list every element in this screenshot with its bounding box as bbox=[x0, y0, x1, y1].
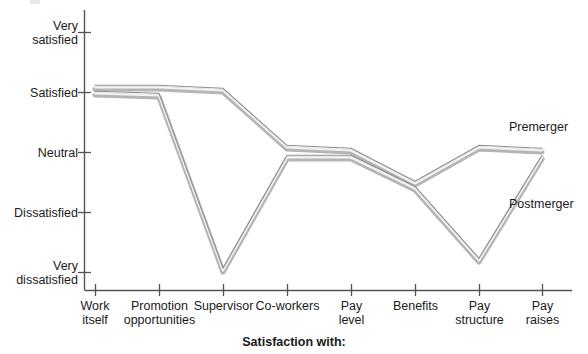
y-tick-label-dissatisfied: Dissatisfied bbox=[0, 206, 78, 220]
x-tick-label-benefits: Benefits bbox=[381, 299, 450, 313]
x-tick-label-pay-raises: Pay raises bbox=[508, 299, 577, 327]
y-tick-label-very-dissatisfied: Very dissatisfied bbox=[0, 259, 78, 287]
x-tick-label-pay-level: Pay level bbox=[320, 299, 383, 327]
legend-label-postmerger: Postmerger bbox=[509, 197, 574, 211]
x-tick-label-co-workers: Co-workers bbox=[247, 299, 328, 313]
x-tick-label-pay-structure: Pay structure bbox=[441, 299, 518, 327]
y-tick-label-satisfied: Satisfied bbox=[0, 86, 78, 100]
series-postmerger bbox=[95, 91, 542, 272]
legend-label-premerger: Premerger bbox=[509, 120, 568, 134]
y-tick-label-very-satisfied: Very satisfied bbox=[0, 19, 78, 47]
chart-container: Very satisfied Satisfied Neutral Dissati… bbox=[0, 0, 588, 354]
x-axis-title: Satisfaction with: bbox=[0, 335, 588, 349]
postmerger-shadow bbox=[95, 95, 542, 272]
postmerger-edge bbox=[95, 91, 542, 268]
y-tick-label-neutral: Neutral bbox=[0, 146, 78, 160]
postmerger-line bbox=[95, 94, 542, 271]
